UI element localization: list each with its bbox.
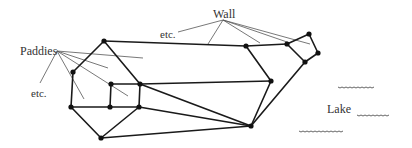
wave-icon [338,87,374,88]
node-b [70,69,75,74]
wall-label: Wall [213,8,235,20]
node-g [107,104,112,109]
node-j [268,78,273,83]
node-o [302,59,307,64]
node-a [101,38,106,43]
paddies-etc-label: etc. [31,87,47,99]
node-l [284,41,289,46]
wave-icon [299,131,343,132]
wall-pointers [178,20,310,44]
node-f [137,81,142,86]
network-graph [0,0,412,148]
lake-label: Lake [327,103,351,115]
node-h [136,104,141,109]
graph-nodes [68,31,320,140]
node-d [98,135,103,140]
node-k [248,123,253,128]
paddies-pointers [40,51,143,99]
node-i [243,43,248,48]
node-m [306,31,311,36]
node-c [68,104,73,109]
graph-edges [71,34,318,138]
paddies-label: Paddies [20,45,57,57]
wall-etc-label: etc. [160,28,176,40]
wave-icon [357,115,389,116]
node-n [315,50,320,55]
node-e [108,81,113,86]
diagram-canvas: Paddies etc. Wall etc. Lake [0,0,412,148]
